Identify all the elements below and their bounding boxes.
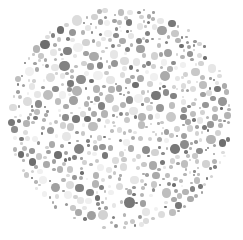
ishihara-dot bbox=[219, 139, 227, 147]
ishihara-dot bbox=[83, 51, 89, 57]
ishihara-dot bbox=[207, 121, 214, 128]
ishihara-dot bbox=[75, 184, 84, 193]
ishihara-dot bbox=[72, 15, 83, 26]
ishihara-dot bbox=[66, 37, 70, 41]
ishihara-dot bbox=[140, 200, 147, 207]
ishihara-dot bbox=[158, 38, 161, 41]
ishihara-dot bbox=[123, 139, 130, 146]
ishihara-dot bbox=[185, 36, 188, 39]
ishihara-dot bbox=[96, 41, 102, 47]
ishihara-dot bbox=[91, 31, 94, 34]
ishihara-dot bbox=[86, 189, 94, 197]
ishihara-dot bbox=[104, 71, 109, 76]
ishihara-dot bbox=[144, 97, 150, 103]
ishihara-dot bbox=[104, 206, 108, 210]
ishihara-dot bbox=[69, 29, 77, 37]
ishihara-dot bbox=[228, 104, 231, 107]
ishihara-dot bbox=[159, 184, 162, 187]
ishihara-dot bbox=[49, 180, 52, 183]
ishihara-dot bbox=[31, 105, 34, 108]
ishihara-dot bbox=[174, 126, 180, 132]
ishihara-dot bbox=[93, 145, 99, 151]
ishihara-dot bbox=[29, 148, 35, 154]
ishihara-dot bbox=[177, 210, 180, 213]
ishihara-dot bbox=[87, 96, 91, 100]
ishihara-dot bbox=[104, 20, 111, 27]
ishihara-dot bbox=[54, 151, 62, 159]
ishihara-dot bbox=[59, 61, 70, 72]
ishihara-dot bbox=[163, 89, 170, 96]
ishihara-dot bbox=[151, 91, 161, 101]
ishihara-dot bbox=[144, 183, 148, 187]
ishihara-dot bbox=[106, 60, 109, 63]
ishihara-dot bbox=[116, 116, 119, 119]
ishihara-dot bbox=[120, 57, 129, 66]
ishihara-dot bbox=[54, 58, 58, 62]
ishihara-dot bbox=[62, 132, 71, 141]
ishihara-dot bbox=[164, 206, 167, 209]
ishihara-dot bbox=[38, 184, 41, 187]
ishihara-dot bbox=[136, 166, 140, 170]
ishihara-dot bbox=[58, 109, 61, 112]
ishihara-dot bbox=[218, 70, 221, 73]
ishihara-dot bbox=[91, 111, 98, 118]
ishihara-dot bbox=[157, 137, 163, 143]
ishihara-dot bbox=[113, 171, 117, 175]
ishihara-dot bbox=[142, 64, 146, 68]
ishihara-dot bbox=[25, 67, 34, 76]
ishihara-dot bbox=[152, 188, 156, 192]
ishihara-dot bbox=[60, 144, 64, 148]
ishihara-dot bbox=[223, 120, 226, 123]
ishihara-dot bbox=[173, 177, 178, 182]
ishihara-dot bbox=[181, 36, 184, 39]
ishihara-dot bbox=[49, 141, 56, 148]
ishihara-dot bbox=[80, 157, 83, 160]
ishihara-dot bbox=[111, 60, 119, 68]
ishihara-dot bbox=[158, 146, 161, 149]
ishihara-dot bbox=[92, 180, 100, 188]
ishihara-dot bbox=[32, 53, 35, 56]
ishihara-dot bbox=[203, 56, 207, 60]
ishihara-dot bbox=[126, 30, 129, 33]
ishihara-dot bbox=[21, 75, 24, 78]
ishihara-dot bbox=[145, 39, 149, 43]
ishihara-dot bbox=[201, 131, 204, 134]
ishihara-dot bbox=[197, 167, 200, 170]
ishihara-dot bbox=[52, 168, 56, 172]
ishihara-dot bbox=[170, 144, 180, 154]
ishihara-dot bbox=[190, 186, 196, 192]
ishihara-dot bbox=[123, 131, 127, 135]
ishihara-dot bbox=[207, 129, 210, 132]
ishihara-dot bbox=[179, 179, 183, 183]
ishihara-dot bbox=[162, 85, 166, 89]
ishihara-dot bbox=[55, 134, 59, 138]
ishihara-dot bbox=[160, 66, 164, 70]
ishihara-dot bbox=[64, 23, 69, 28]
ishihara-dot bbox=[124, 197, 135, 208]
ishihara-dot bbox=[193, 44, 196, 47]
ishihara-dot bbox=[185, 168, 188, 171]
ishihara-dot bbox=[156, 104, 165, 113]
ishihara-dot bbox=[113, 125, 116, 128]
ishihara-dot bbox=[201, 191, 204, 194]
ishihara-dot bbox=[114, 165, 117, 168]
ishihara-dot bbox=[142, 146, 151, 155]
ishihara-dot bbox=[40, 40, 50, 50]
ishihara-dot bbox=[18, 95, 23, 100]
ishihara-dot bbox=[138, 113, 146, 121]
ishihara-dot bbox=[84, 116, 91, 123]
ishihara-dot bbox=[146, 105, 153, 112]
ishihara-dot bbox=[160, 71, 171, 82]
ishihara-dot bbox=[202, 102, 209, 109]
ishihara-dot bbox=[167, 66, 173, 72]
ishihara-dot bbox=[31, 170, 35, 174]
ishihara-dot bbox=[137, 75, 145, 83]
ishihara-dot bbox=[163, 166, 166, 169]
ishihara-dot bbox=[101, 178, 106, 183]
ishihara-dot bbox=[150, 102, 153, 105]
ishihara-dot bbox=[137, 23, 144, 30]
ishihara-dot bbox=[124, 149, 127, 152]
ishihara-dot bbox=[117, 20, 122, 25]
ishihara-dot bbox=[13, 147, 18, 152]
ishihara-dot bbox=[98, 210, 108, 220]
